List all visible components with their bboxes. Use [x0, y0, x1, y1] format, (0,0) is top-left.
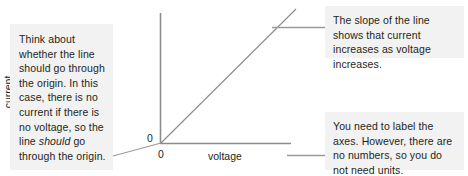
axes-label-annotation-callout: You need to label the axes. However, the…: [325, 112, 464, 170]
y-axis-origin-tick-label: 0: [147, 132, 153, 144]
origin-annotation-callout: Think about whether the line should go t…: [10, 24, 113, 170]
leader-line-left: [113, 143, 161, 156]
slope-annotation-callout: The slope of the line shows that current…: [325, 6, 464, 58]
axes-label-annotation-text: You need to label the axes. However, the…: [333, 119, 458, 176]
origin-annotation-text-part-1: Think about whether the line should go t…: [19, 33, 105, 147]
x-axis-origin-tick-label: 0: [158, 148, 164, 160]
data-line: [161, 9, 297, 144]
x-axis-label: voltage: [208, 150, 242, 162]
origin-annotation-emphasis: should: [39, 135, 71, 147]
slope-annotation-text: The slope of the line shows that current…: [333, 13, 458, 71]
annotated-graph-figure: current voltage 0 0 Think about whether …: [0, 0, 468, 176]
origin-annotation-text: Think about whether the line should go t…: [19, 32, 106, 163]
